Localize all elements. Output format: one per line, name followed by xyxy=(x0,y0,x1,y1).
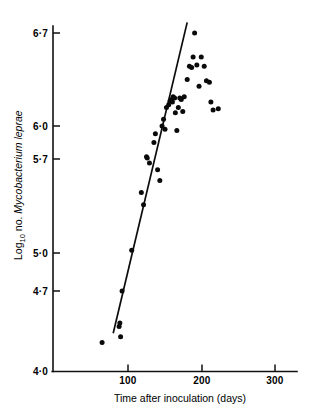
y-tick-labels: 6·7 6·0 5·7 5·0 4·7 4·0 xyxy=(33,28,48,378)
data-points-group xyxy=(100,31,221,345)
data-point xyxy=(197,84,202,89)
x-axis-label: Time after inoculation (days) xyxy=(114,392,246,404)
data-point xyxy=(151,140,156,145)
y-tick-marks xyxy=(53,33,60,291)
y-axis-label: Log10 no. Mycobacterium leprae xyxy=(12,110,27,260)
data-point xyxy=(139,190,144,195)
x-tick-label-200: 200 xyxy=(193,375,211,386)
data-point xyxy=(207,80,212,85)
data-point xyxy=(147,161,152,166)
y-tick-label-4-7: 4·7 xyxy=(33,286,48,297)
data-point xyxy=(202,64,207,69)
y-tick-label-4-0: 4·0 xyxy=(33,366,48,377)
data-point xyxy=(163,127,168,132)
data-point xyxy=(120,289,125,294)
y-axis-label-mid: no. xyxy=(12,214,24,234)
data-point xyxy=(161,117,166,122)
y-axis-label-group: Log10 no. Mycobacterium leprae xyxy=(12,110,27,260)
data-point xyxy=(153,131,158,136)
data-point xyxy=(211,108,216,113)
data-point xyxy=(172,96,177,101)
data-point xyxy=(129,248,134,253)
data-point xyxy=(189,65,194,70)
data-point xyxy=(176,105,181,110)
x-tick-marks xyxy=(128,365,275,372)
data-point xyxy=(118,334,123,339)
data-point xyxy=(216,106,221,111)
data-point xyxy=(157,178,162,183)
data-point xyxy=(145,155,150,160)
data-point xyxy=(155,167,160,172)
scatter-plot: Log10 no. Mycobacterium leprae 6·7 6·0 5… xyxy=(0,0,312,416)
data-point xyxy=(192,31,197,36)
regression-line-group xyxy=(113,22,187,333)
data-point xyxy=(141,202,146,207)
chart-figure: Log10 no. Mycobacterium leprae 6·7 6·0 5… xyxy=(0,0,312,416)
x-tick-labels: 100 200 300 xyxy=(119,375,284,386)
data-point xyxy=(182,94,187,99)
data-point xyxy=(194,62,199,67)
y-tick-label-6-7: 6·7 xyxy=(33,28,48,39)
x-tick-label-100: 100 xyxy=(119,375,137,386)
y-tick-label-5-0: 5·0 xyxy=(33,248,48,259)
y-axis-label-subscript: 10 xyxy=(18,234,27,242)
data-point xyxy=(199,54,204,59)
data-point xyxy=(173,110,178,115)
data-point xyxy=(185,77,190,82)
data-point xyxy=(117,321,122,326)
data-point xyxy=(191,54,196,59)
y-tick-label-6-0: 6·0 xyxy=(33,121,48,132)
y-axis-label-species: Mycobacterium leprae xyxy=(12,110,24,213)
regression-line xyxy=(113,22,187,333)
x-tick-label-300: 300 xyxy=(266,375,284,386)
data-point xyxy=(208,100,213,105)
data-point xyxy=(180,109,185,114)
data-point xyxy=(100,340,105,345)
y-tick-label-5-7: 5·7 xyxy=(33,154,48,165)
data-point xyxy=(174,128,179,133)
y-axis-label-prefix: Log xyxy=(12,242,24,260)
